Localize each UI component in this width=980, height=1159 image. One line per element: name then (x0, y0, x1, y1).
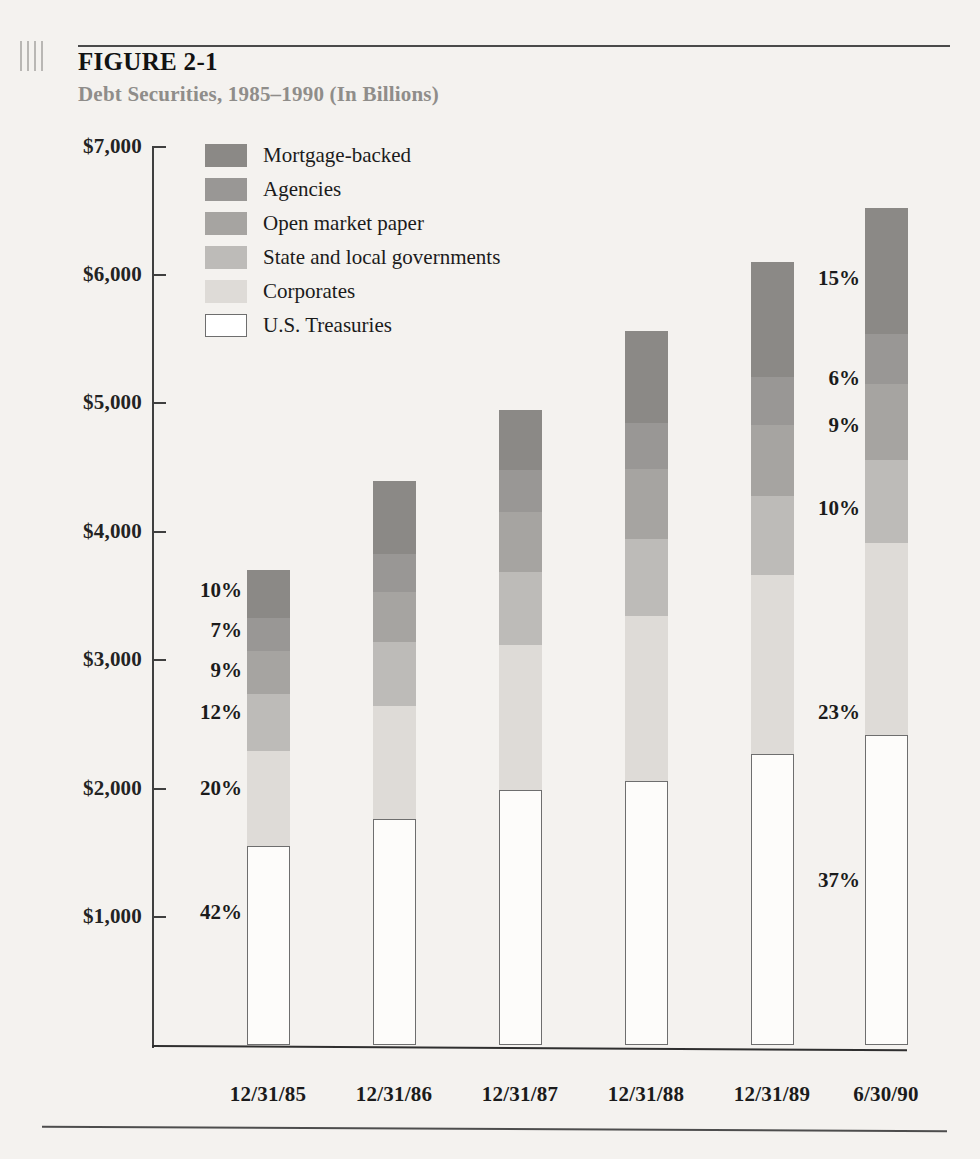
bar-segment-mortgage-backed[interactable] (373, 481, 416, 554)
bar-segment-mortgage-backed[interactable] (499, 410, 542, 470)
bar-segment-state-and-local-governments[interactable] (247, 694, 290, 751)
bar-segment-us-treasuries[interactable] (247, 846, 290, 1045)
bar-segment-us-treasuries[interactable] (499, 790, 542, 1045)
x-axis-label-12-31-85: 12/31/85 (198, 1082, 338, 1107)
pct-label-agencies-90: 6% (790, 366, 860, 391)
legend-item-us-treasuries[interactable]: U.S. Treasuries (205, 308, 500, 342)
bar-segment-agencies[interactable] (247, 618, 290, 651)
bar-segment-corporates[interactable] (247, 751, 290, 846)
bar-segment-state-and-local-governments[interactable] (865, 460, 908, 543)
y-axis-label-6000: $6,000 (22, 262, 142, 287)
y-tick-1000 (153, 916, 166, 918)
legend-item-mortgage-backed[interactable]: Mortgage-backed (205, 138, 500, 172)
bar-segment-mortgage-backed[interactable] (865, 208, 908, 334)
figure-page: FIGURE 2-1 Debt Securities, 1985–1990 (I… (0, 0, 980, 1159)
bar-12-31-86[interactable] (373, 481, 416, 1045)
bar-segment-open-market-paper[interactable] (751, 425, 794, 496)
legend-item-label: U.S. Treasuries (263, 313, 392, 338)
bar-segment-state-and-local-governments[interactable] (499, 572, 542, 645)
bar-segment-open-market-paper[interactable] (499, 512, 542, 572)
legend-item-label: Open market paper (263, 211, 424, 236)
bar-12-31-88[interactable] (625, 331, 668, 1045)
pct-label-mortgage-backed-90: 15% (790, 266, 860, 291)
y-tick-5000 (153, 402, 166, 404)
x-axis-line (152, 1045, 907, 1051)
pct-label-corporates-90: 23% (790, 700, 860, 725)
bar-segment-corporates[interactable] (625, 616, 668, 781)
legend-item-agencies[interactable]: Agencies (205, 172, 500, 206)
x-axis-label-12-31-88: 12/31/88 (576, 1082, 716, 1107)
bar-segment-corporates[interactable] (865, 543, 908, 735)
y-axis-line (152, 146, 154, 1048)
pct-label-us-treasuries-85: 42% (172, 900, 242, 925)
pct-label-corporates-85: 20% (172, 776, 242, 801)
legend: Mortgage-backed Agencies Open market pap… (205, 138, 500, 342)
bar-segment-agencies[interactable] (865, 334, 908, 384)
bar-6-30-90[interactable] (865, 208, 908, 1045)
bar-segment-corporates[interactable] (373, 706, 416, 819)
y-tick-4000 (153, 531, 166, 533)
bar-segment-us-treasuries[interactable] (865, 735, 908, 1045)
bar-segment-open-market-paper[interactable] (865, 384, 908, 460)
y-tick-3000 (153, 659, 166, 661)
y-axis-label-5000: $5,000 (22, 390, 142, 415)
bar-12-31-85[interactable] (247, 570, 290, 1045)
y-axis-label-7000: $7,000 (22, 134, 142, 159)
pct-label-open-market-paper-90: 9% (790, 413, 860, 438)
bar-segment-agencies[interactable] (751, 377, 794, 425)
y-axis-label-2000: $2,000 (22, 776, 142, 801)
pct-label-state-local-90: 10% (790, 496, 860, 521)
y-axis-label-4000: $4,000 (22, 519, 142, 544)
legend-item-corporates[interactable]: Corporates (205, 274, 500, 308)
chart-plot-area: $7,000 $6,000 $5,000 $4,000 $3,000 $2,00… (0, 0, 980, 1159)
bar-segment-mortgage-backed[interactable] (247, 570, 290, 618)
y-tick-6000 (153, 274, 166, 276)
y-axis-label-1000: $1,000 (22, 904, 142, 929)
legend-swatch-icon (205, 280, 247, 303)
bar-segment-state-and-local-governments[interactable] (751, 496, 794, 575)
legend-swatch-icon (205, 246, 247, 269)
x-axis-label-12-31-87: 12/31/87 (450, 1082, 590, 1107)
bar-segment-state-and-local-governments[interactable] (625, 539, 668, 616)
bar-segment-open-market-paper[interactable] (625, 469, 668, 539)
bar-segment-mortgage-backed[interactable] (625, 331, 668, 423)
bar-segment-state-and-local-governments[interactable] (373, 642, 416, 706)
pct-label-open-market-paper-85: 9% (172, 658, 242, 683)
bar-segment-corporates[interactable] (751, 575, 794, 754)
legend-swatch-icon (205, 178, 247, 201)
pct-label-state-local-85: 12% (172, 700, 242, 725)
bar-segment-mortgage-backed[interactable] (751, 262, 794, 377)
legend-item-state-and-local-governments[interactable]: State and local governments (205, 240, 500, 274)
y-axis-label-3000: $3,000 (22, 647, 142, 672)
pct-label-us-treasuries-90: 37% (790, 868, 860, 893)
bar-segment-agencies[interactable] (625, 423, 668, 469)
legend-item-label: State and local governments (263, 245, 500, 270)
bar-segment-corporates[interactable] (499, 645, 542, 790)
legend-item-label: Mortgage-backed (263, 143, 411, 168)
bar-segment-us-treasuries[interactable] (751, 754, 794, 1045)
x-axis-label-12-31-86: 12/31/86 (324, 1082, 464, 1107)
bar-segment-open-market-paper[interactable] (373, 592, 416, 642)
pct-label-agencies-85: 7% (172, 618, 242, 643)
bar-segment-open-market-paper[interactable] (247, 651, 290, 694)
y-tick-7000 (153, 146, 166, 148)
y-tick-2000 (153, 788, 166, 790)
bar-12-31-87[interactable] (499, 410, 542, 1045)
bar-segment-us-treasuries[interactable] (373, 819, 416, 1045)
legend-swatch-icon (205, 314, 247, 337)
legend-swatch-icon (205, 144, 247, 167)
legend-item-label: Corporates (263, 279, 355, 304)
bar-segment-agencies[interactable] (373, 554, 416, 592)
legend-swatch-icon (205, 212, 247, 235)
x-axis-label-6-30-90: 6/30/90 (816, 1082, 956, 1107)
legend-item-label: Agencies (263, 177, 341, 202)
pct-label-mortgage-backed-85: 10% (172, 578, 242, 603)
bar-12-31-89[interactable] (751, 262, 794, 1045)
bar-segment-us-treasuries[interactable] (625, 781, 668, 1045)
bar-segment-agencies[interactable] (499, 470, 542, 512)
legend-item-open-market-paper[interactable]: Open market paper (205, 206, 500, 240)
